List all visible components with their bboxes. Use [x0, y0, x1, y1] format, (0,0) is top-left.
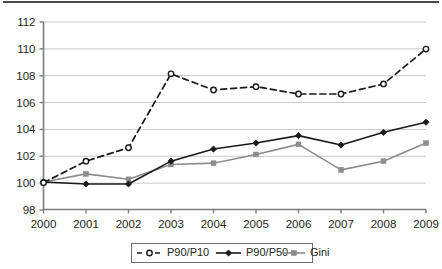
data-point-marker	[295, 133, 301, 139]
data-point-marker	[339, 167, 344, 172]
line-chart: 98100102104106108110112 2000200120022003…	[0, 0, 442, 269]
data-point-marker	[83, 158, 88, 163]
data-point-marker	[423, 119, 429, 125]
x-tick-label: 2002	[116, 218, 142, 230]
data-point-marker	[423, 46, 428, 51]
data-point-marker	[292, 251, 297, 256]
series-line	[44, 49, 427, 183]
series-line	[44, 122, 427, 184]
x-tick-label: 2000	[31, 218, 57, 230]
data-point-marker	[338, 91, 343, 96]
y-tick-label: 98	[23, 204, 36, 216]
x-tick-label: 2004	[201, 218, 227, 230]
legend-entry-label: P90/P10	[167, 246, 209, 258]
y-tick-label: 108	[16, 70, 35, 82]
x-tick-label: 2008	[371, 218, 397, 230]
y-tick-label: 112	[17, 16, 35, 28]
data-point-marker	[338, 142, 344, 148]
x-tick-label: 2005	[243, 218, 269, 230]
data-point-marker	[381, 81, 386, 86]
legend-entry-label: Gini	[310, 246, 330, 258]
y-tick-label: 100	[16, 177, 35, 189]
x-tick-label: 2009	[413, 218, 439, 230]
data-point-marker	[296, 91, 301, 96]
chart-figure: 98100102104106108110112 2000200120022003…	[0, 0, 442, 269]
x-tick-label: 2001	[73, 218, 99, 230]
data-point-marker	[381, 159, 386, 164]
data-point-marker	[147, 250, 152, 255]
y-tick-label: 102	[16, 150, 35, 162]
data-point-marker	[168, 71, 173, 76]
data-point-marker	[83, 181, 89, 187]
x-tick-label: 2007	[328, 218, 354, 230]
data-point-marker	[253, 140, 259, 146]
data-point-marker	[210, 146, 216, 152]
data-point-marker	[296, 142, 301, 147]
y-tick-label: 104	[16, 123, 36, 135]
x-axis-ticks: 2000200120022003200420052006200720082009	[31, 210, 439, 230]
data-point-marker	[211, 161, 216, 166]
x-tick-label: 2006	[286, 218, 312, 230]
data-point-marker	[254, 152, 259, 157]
data-point-marker	[126, 145, 131, 150]
data-point-marker	[424, 141, 429, 146]
series-line	[44, 143, 427, 182]
data-point-marker	[253, 84, 258, 89]
y-tick-label: 110	[17, 43, 35, 55]
chart-legend: P90/P10P90/P50Gini	[132, 244, 330, 263]
x-tick-label: 2003	[158, 218, 184, 230]
data-point-marker	[41, 180, 46, 185]
y-tick-label: 106	[16, 97, 35, 109]
legend-entry-label: P90/P50	[246, 246, 288, 258]
axes-group	[44, 22, 427, 210]
data-point-marker	[380, 129, 386, 135]
data-point-marker	[84, 172, 89, 177]
data-point-marker	[211, 87, 216, 92]
series-gini	[41, 141, 428, 185]
y-axis-ticks: 98100102104106108110112	[16, 16, 43, 216]
